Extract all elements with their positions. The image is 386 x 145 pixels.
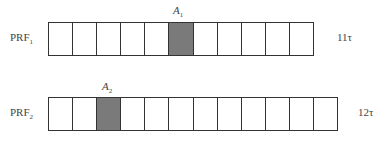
cell	[242, 23, 266, 55]
cell	[266, 98, 290, 130]
row1-label-subscript: 1	[30, 38, 34, 46]
cell	[290, 23, 314, 55]
row1-marker-subscript: 1	[180, 11, 184, 19]
cell	[97, 23, 121, 55]
row2-label-text: PRF	[10, 106, 30, 118]
row1-label: PRF1	[10, 31, 33, 46]
cell	[145, 23, 169, 55]
cell	[218, 98, 242, 130]
row1-marker-text: A	[173, 4, 180, 16]
row1-cell-strip	[48, 22, 314, 56]
row2-cell-strip	[48, 97, 338, 131]
row1-marker: A1	[173, 4, 183, 19]
cell	[194, 23, 218, 55]
row2-label-subscript: 2	[30, 113, 34, 121]
cell	[73, 98, 97, 130]
row2-marker-subscript: 2	[109, 87, 113, 95]
cell	[169, 98, 193, 130]
shaded-cell	[169, 23, 193, 55]
row2-marker: A2	[102, 80, 112, 95]
row2-label: PRF2	[10, 106, 33, 121]
cell	[242, 98, 266, 130]
cell	[290, 98, 314, 130]
row1-label-text: PRF	[10, 31, 30, 43]
shaded-cell	[97, 98, 121, 130]
row1-period: 11τ	[337, 31, 352, 43]
cell	[145, 98, 169, 130]
cell	[194, 98, 218, 130]
cell	[121, 23, 145, 55]
cell	[218, 23, 242, 55]
cell	[73, 23, 97, 55]
cell	[314, 98, 338, 130]
cell	[266, 23, 290, 55]
cell	[121, 98, 145, 130]
cell	[49, 23, 73, 55]
cell	[49, 98, 73, 130]
row2-period: 12τ	[358, 106, 373, 118]
row2-marker-text: A	[102, 80, 109, 92]
